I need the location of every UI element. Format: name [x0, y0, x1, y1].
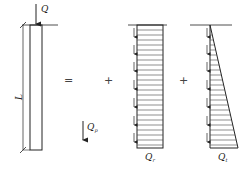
plus-sign-1: + — [104, 74, 113, 87]
equals-sign: = — [64, 74, 73, 87]
load-label: Q — [41, 4, 49, 14]
tip-resistance: Qp — [83, 121, 98, 140]
tip-resistance-label: Qp — [87, 122, 98, 134]
hatch-lines — [137, 30, 163, 145]
triangular-friction-diagram: Qt — [190, 25, 238, 163]
plus-sign-2: + — [179, 74, 188, 87]
length-dimension — [20, 22, 30, 153]
uniform-friction-diagram: Qr — [128, 25, 167, 163]
uniform-friction-label: Qr — [145, 152, 155, 163]
triangular-friction-label: Qt — [218, 152, 228, 163]
pile-load-decomposition-diagram: Q L = + + Qp — [0, 0, 248, 174]
pile-body — [30, 25, 42, 150]
length-label: L — [14, 94, 24, 101]
pile: Q L — [14, 4, 58, 153]
